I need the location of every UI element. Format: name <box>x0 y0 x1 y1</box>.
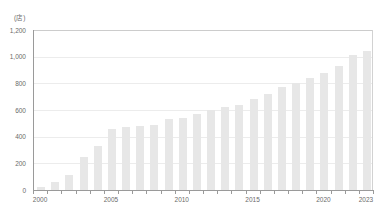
y-axis-line <box>33 30 34 190</box>
bar <box>51 182 59 190</box>
bar <box>320 73 328 190</box>
x-axis-tick-label: 2010 <box>175 196 189 204</box>
y-axis-tick-labels: 02004006008001,0001,200 <box>0 30 30 190</box>
bar <box>80 157 88 190</box>
bar <box>136 126 144 190</box>
bar <box>363 51 371 190</box>
y-axis-tick-label: 0 <box>0 187 26 194</box>
bar <box>207 110 215 190</box>
y-axis-tick-label: 200 <box>0 160 26 167</box>
x-axis-tick-label: 2015 <box>245 196 259 204</box>
x-axis-tick <box>33 190 34 194</box>
x-axis-tick <box>104 190 105 194</box>
bar <box>264 94 272 190</box>
bar <box>335 66 343 190</box>
x-axis-tick <box>161 190 162 194</box>
x-axis-tick <box>288 190 289 194</box>
x-axis-tick-label: 2000 <box>33 196 47 204</box>
x-axis-tick <box>146 190 147 194</box>
x-axis-ticks <box>33 190 373 194</box>
x-axis-tick <box>203 190 204 194</box>
x-axis-tick <box>246 190 247 194</box>
y-axis-unit-label: (店) <box>14 12 25 22</box>
bar <box>349 55 357 190</box>
x-axis-tick <box>217 190 218 194</box>
x-axis-tick-label: 2020 <box>316 196 330 204</box>
bar <box>235 105 243 190</box>
plot-area <box>33 30 373 190</box>
bar <box>165 119 173 190</box>
bar <box>278 87 286 190</box>
y-axis-tick-label: 800 <box>0 80 26 87</box>
plot-right-border <box>372 30 373 190</box>
x-axis-tick <box>373 190 374 194</box>
bar-series <box>33 30 373 190</box>
x-axis-tick <box>189 190 190 194</box>
bar <box>65 175 73 190</box>
x-axis-tick-label: 2023 <box>359 196 373 204</box>
y-axis-tick-label: 600 <box>0 107 26 114</box>
bar <box>150 125 158 190</box>
bar <box>221 107 229 190</box>
y-axis-tick-label: 400 <box>0 133 26 140</box>
x-axis-tick <box>76 190 77 194</box>
bar <box>193 114 201 190</box>
x-axis-tick <box>302 190 303 194</box>
bar <box>306 78 314 190</box>
x-axis-tick <box>175 190 176 194</box>
bar <box>292 83 300 190</box>
x-axis-tick-labels: 200020052010201520202023 <box>33 196 373 208</box>
x-axis-tick <box>260 190 261 194</box>
bar <box>108 129 116 190</box>
x-axis-tick <box>47 190 48 194</box>
bar <box>94 146 102 190</box>
x-axis-tick <box>90 190 91 194</box>
y-axis-tick-label: 1,200 <box>0 27 26 34</box>
bar <box>122 127 130 190</box>
x-axis-tick <box>274 190 275 194</box>
x-axis-tick <box>231 190 232 194</box>
x-axis-tick <box>118 190 119 194</box>
y-axis-tick-label: 1,000 <box>0 53 26 60</box>
bar <box>250 99 258 190</box>
x-axis-tick <box>61 190 62 194</box>
bar <box>179 118 187 190</box>
x-axis-tick <box>331 190 332 194</box>
x-axis-tick-label: 2005 <box>104 196 118 204</box>
x-axis-tick <box>316 190 317 194</box>
x-axis-tick <box>345 190 346 194</box>
x-axis-tick <box>132 190 133 194</box>
bar-chart: (店) 02004006008001,0001,200 200020052010… <box>0 0 381 219</box>
x-axis-tick <box>359 190 360 194</box>
